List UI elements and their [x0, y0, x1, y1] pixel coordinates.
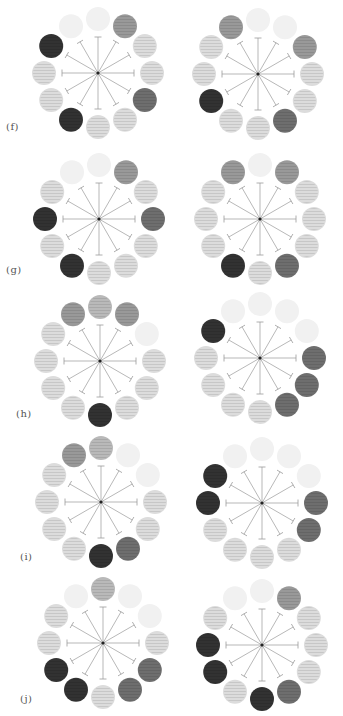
yarn-texture [136, 377, 158, 399]
spoke-tbar [127, 52, 130, 58]
spoke-tbar [82, 672, 88, 676]
spoke-tbar [275, 186, 281, 190]
spoke-line [260, 188, 278, 219]
yarn-texture [220, 16, 242, 38]
spoke-line [260, 327, 278, 358]
spoke-line [99, 219, 117, 250]
spoke-line [227, 74, 258, 92]
spoke-tbar [275, 325, 281, 329]
yarn-texture [303, 208, 325, 230]
spoke-tbar [241, 532, 247, 536]
spoke-line [262, 503, 280, 534]
spoke-tbar [291, 660, 295, 666]
spoke-tbar [237, 103, 243, 107]
spoke-line [242, 188, 260, 219]
center-dot [260, 643, 263, 646]
panel-label-h: (h) [16, 408, 32, 419]
spoke-line [100, 361, 118, 392]
spoke-line [101, 502, 119, 533]
spoke-tbar [66, 198, 70, 204]
spoke-line [260, 219, 278, 250]
spoke-tbar [132, 622, 136, 628]
yarn-texture [40, 35, 62, 57]
spoke-line [240, 43, 258, 74]
spoke-line [99, 219, 130, 237]
yarn-ball-icon [223, 444, 247, 468]
yarn-texture [90, 545, 112, 567]
spoke-line [98, 55, 129, 73]
yarn-texture [43, 518, 65, 540]
spoke-tbar [277, 612, 283, 616]
spoke-tbar [77, 40, 83, 44]
yarn-texture [115, 255, 137, 277]
spoke-line [67, 73, 98, 91]
spoke-tbar [130, 517, 134, 523]
yarn-ball-icon [59, 14, 83, 38]
yarn-texture [224, 681, 246, 703]
spoke-tbar [113, 102, 119, 106]
yarn-texture [303, 347, 325, 369]
yarn-texture [296, 181, 318, 203]
spoke-tbar [289, 234, 293, 240]
spoke-tbar [116, 469, 122, 473]
spoke-line [258, 56, 289, 74]
spoke-line [82, 361, 100, 392]
spoke-line [258, 74, 289, 92]
yarn-texture [305, 634, 327, 656]
spoke-line [262, 485, 293, 503]
yarn-texture [276, 255, 298, 277]
spoke-line [100, 361, 131, 379]
spoke-tbar [128, 198, 132, 204]
yarn-ball-icon [246, 8, 270, 32]
spoke-tbar [132, 658, 136, 664]
spoke-tbar [67, 376, 71, 382]
spoke-line [260, 358, 278, 389]
yarn-texture [114, 15, 136, 37]
spoke-tbar [80, 531, 86, 535]
spoke-line [101, 502, 132, 520]
spoke-line [101, 471, 119, 502]
yarn-texture [42, 377, 64, 399]
spoke-tbar [239, 248, 245, 252]
yarn-texture [276, 394, 298, 416]
center-dot [97, 217, 100, 220]
yarn-texture [89, 404, 111, 426]
yarn-ball-icon [221, 299, 245, 323]
spoke-line [98, 42, 116, 73]
spoke-tbar [79, 328, 85, 332]
spoke-tbar [227, 337, 231, 343]
spoke-line [100, 343, 131, 361]
yarn-ball-icon [116, 443, 140, 467]
yarn-texture [249, 401, 271, 423]
spoke-line [242, 327, 260, 358]
yarn-texture [251, 688, 273, 710]
spoke-tbar [227, 373, 231, 379]
spoke-tbar [241, 470, 247, 474]
yarn-texture [62, 303, 84, 325]
spoke-tbar [229, 624, 233, 630]
spoke-tbar [273, 103, 279, 107]
center-dot [101, 641, 104, 644]
yarn-texture [276, 161, 298, 183]
figure: (f) (g) (h) (i) (j) [0, 0, 343, 716]
yarn-ball-icon [136, 463, 160, 487]
yarn-texture [35, 350, 57, 372]
panel-label-i: (i) [20, 551, 33, 562]
yarn-ball-icon [297, 464, 321, 488]
yarn-texture [41, 181, 63, 203]
spoke-line [262, 503, 293, 521]
spoke-line [100, 330, 118, 361]
yarn-texture [63, 444, 85, 466]
center-dot [256, 72, 259, 75]
yarn-texture [119, 679, 141, 701]
spoke-tbar [241, 612, 247, 616]
spoke-line [98, 73, 116, 104]
yarn-texture [249, 262, 271, 284]
spoke-tbar [68, 517, 72, 523]
yarn-texture [197, 634, 219, 656]
spoke-line [80, 42, 98, 73]
yarn-texture [220, 110, 242, 132]
spoke-line [244, 614, 262, 645]
yarn-ball-icon [275, 299, 299, 323]
yarn-texture [294, 90, 316, 112]
